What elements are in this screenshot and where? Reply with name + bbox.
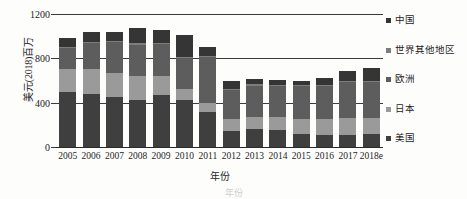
x-tick-label: 2005 [58,151,77,161]
bar-segment [223,131,240,147]
x-tick-label: 2015 [292,151,311,161]
bar-segment [176,89,193,100]
x-tick-label: 2017 [338,151,357,161]
bar-segment [129,76,146,100]
x-tick-label: 2012 [222,151,241,161]
bar-segment [293,119,310,134]
bar-segment [223,119,240,131]
bar-segment [176,100,193,147]
x-tick-label: 2018e [360,151,383,161]
bar-segment [83,32,100,42]
bar-column [106,32,123,147]
legend-label: 欧洲 [395,75,415,85]
bar-column [83,32,100,147]
y-tick-label: 1200 [30,9,50,20]
bar-segment [293,86,310,119]
bar-segment [246,129,263,147]
bar-segment [223,81,240,89]
y-tick-mark [51,14,56,15]
x-tick-label: 2008 [128,151,147,161]
bar-segment [339,118,356,135]
legend-label: 世界其他地区 [395,46,455,56]
x-tick-label: 2016 [315,151,334,161]
figure-stacked-bar-chart: 美元(2018)百万 04008001200 20052006200720082… [0,0,467,199]
legend-swatch-icon [386,107,391,112]
x-tick-label: 2007 [105,151,124,161]
legend-item: 美国 [386,134,415,144]
x-tick-label: 2013 [245,151,264,161]
bar-segment [153,44,170,76]
x-tick-label: 2014 [268,151,287,161]
bar-segment [59,38,76,47]
legend-swatch-icon [386,48,391,53]
legend-label: 中国 [395,16,415,26]
x-axis-title: 年份 [56,168,383,183]
bar-column [363,68,380,147]
bar-segment [223,90,240,119]
bar-segment [269,130,286,147]
bar-segment [269,117,286,130]
y-tick-label: 0 [45,142,50,153]
y-tick-label: 800 [35,53,50,64]
bar-segment [246,86,263,118]
bar-segment [129,100,146,147]
x-tick-label: 2006 [82,151,101,161]
bar-segment [269,86,286,117]
bar-segment [106,32,123,40]
bar-segment [59,48,76,70]
y-tick-label: 400 [35,97,50,108]
bar-segment [153,95,170,147]
bar-column [223,81,240,147]
x-tick-label: 2009 [152,151,171,161]
bar-segment [153,30,170,43]
bar-segment [199,103,216,112]
bar-segment [293,134,310,147]
bar-segment [339,71,356,80]
y-tick-mark [51,103,56,104]
bar-segment [129,45,146,76]
legend-item: 欧洲 [386,75,415,85]
bar-column [316,78,333,147]
bar-segment [83,69,100,93]
legend-swatch-icon [386,136,391,141]
legend-swatch-icon [386,77,391,82]
x-tick-label: 2010 [175,151,194,161]
bar-column [269,80,286,147]
bar-segment [153,76,170,95]
bar-segment [316,78,333,85]
bar-segment [246,117,263,129]
bar-segment [316,135,333,147]
legend-item: 中国 [386,16,415,26]
bar-segment [316,86,333,119]
legend-label: 日本 [395,105,415,115]
legend-swatch-icon [386,18,391,23]
bar-segment [59,92,76,147]
bar-segment [106,73,123,97]
bar-segment [176,35,193,57]
gridline [56,14,383,15]
bar-column [59,38,76,147]
legend-item: 世界其他地区 [386,46,455,56]
bar-column [246,79,263,147]
figure-caption: 年份 [0,186,467,199]
legend-item: 日本 [386,105,415,115]
bar-column [176,35,193,147]
bar-column [199,47,216,147]
x-axis-line [56,147,383,148]
bar-segment [199,47,216,56]
bar-segment [83,94,100,147]
legend-label: 美国 [395,134,415,144]
bar-segment [339,135,356,147]
y-tick-mark [51,58,56,59]
bar-segment [199,112,216,147]
bar-segment [316,119,333,136]
x-tick-label: 2011 [198,151,217,161]
bar-column [129,28,146,147]
y-axis-title: 美元(2018)百万 [20,15,35,125]
bar-column [293,81,310,147]
bar-segment [199,57,216,102]
bar-segment [363,134,380,147]
bar-segment [339,82,356,119]
bar-column [153,30,170,147]
bar-segment [363,82,380,117]
